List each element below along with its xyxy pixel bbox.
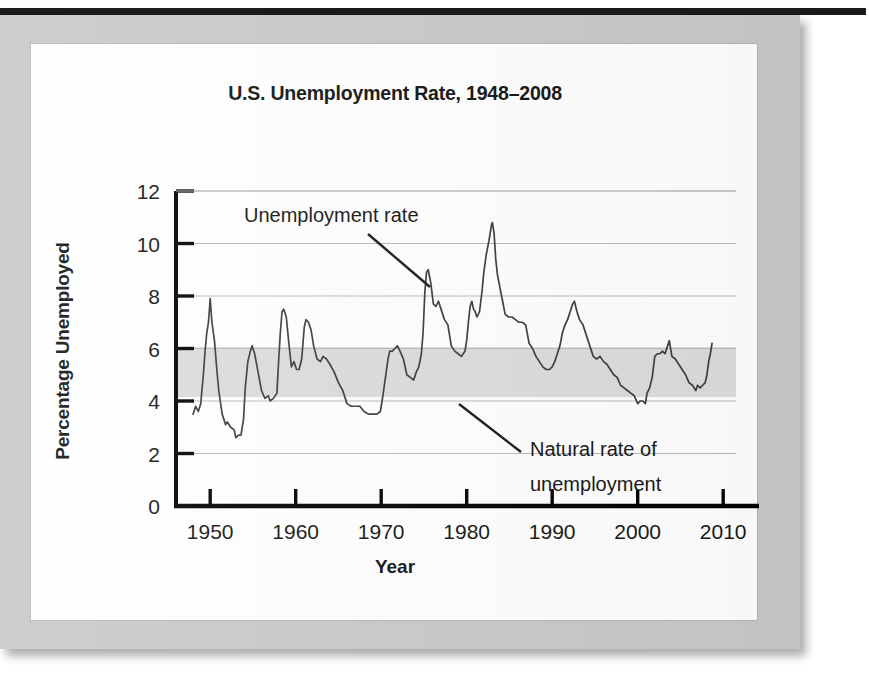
svg-text:1980: 1980 xyxy=(443,520,490,543)
svg-text:10: 10 xyxy=(137,233,160,256)
svg-text:4: 4 xyxy=(148,390,160,413)
svg-text:1990: 1990 xyxy=(529,520,576,543)
gridlines xyxy=(176,191,736,454)
svg-text:2010: 2010 xyxy=(700,520,747,543)
svg-text:8: 8 xyxy=(148,285,160,308)
top-decorative-bar xyxy=(0,8,866,15)
svg-text:1960: 1960 xyxy=(272,520,319,543)
svg-text:2: 2 xyxy=(148,443,160,466)
x-axis-ticks: 1950196019701980199020002010 xyxy=(187,489,747,543)
svg-text:1970: 1970 xyxy=(358,520,405,543)
chart-plot: 024681012 1950196019701980199020002010 U… xyxy=(31,44,759,622)
annotation-natural-rate-line2: unemployment xyxy=(530,473,662,495)
svg-text:2000: 2000 xyxy=(614,520,661,543)
svg-text:6: 6 xyxy=(148,338,160,361)
svg-text:1950: 1950 xyxy=(187,520,234,543)
annotation-natural-rate-line1: Natural rate of xyxy=(530,438,657,460)
svg-text:0: 0 xyxy=(148,495,160,518)
annotation-unemployment-rate: Unemployment rate xyxy=(244,204,419,226)
svg-text:12: 12 xyxy=(137,180,160,203)
y-axis-ticks: 024681012 xyxy=(137,180,194,518)
chart-card: U.S. Unemployment Rate, 1948–2008 Percen… xyxy=(30,43,758,621)
unemployment-rate-line xyxy=(193,223,712,438)
figure-frame: U.S. Unemployment Rate, 1948–2008 Percen… xyxy=(0,15,800,649)
